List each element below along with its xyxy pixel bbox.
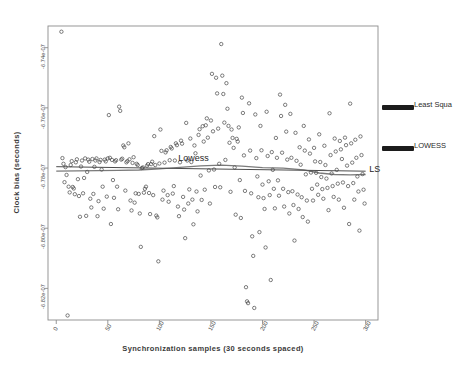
axis-ticks [44, 48, 366, 324]
plot-frame [48, 26, 378, 320]
legend-label-least-squares: Least Squa [414, 100, 452, 109]
plot-canvas [0, 0, 475, 376]
lowess-curve [56, 165, 365, 175]
legend-label-lowess: LOWESS [414, 141, 446, 150]
least-squares-annotation: LS [369, 164, 380, 174]
legend-swatch-lowess [382, 146, 414, 151]
lowess-annotation: Lowess [178, 153, 209, 163]
clock-bias-scatter-figure: Clock bias (seconds) Synchronization sam… [0, 0, 475, 376]
legend-swatch-least-squares [382, 105, 414, 110]
